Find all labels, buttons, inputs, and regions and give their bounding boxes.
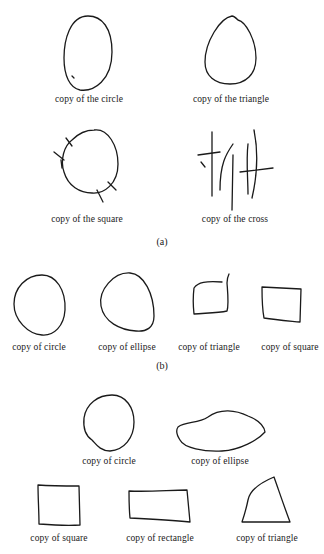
caption-a-cross: copy of the cross (202, 214, 268, 224)
panel-label-a: (a) (156, 236, 167, 247)
caption-b-circle: copy of circle (12, 342, 66, 352)
drawing-b-circle-copy (14, 275, 65, 335)
drawing-b-square-copy (262, 287, 301, 322)
caption-b-square: copy of square (261, 342, 318, 352)
caption-c-circle: copy of circle (82, 456, 136, 466)
drawing-c-rectangle-copy (129, 490, 190, 522)
drawing-a-cross-stroke (198, 152, 220, 155)
drawing-c-triangle-copy (242, 477, 290, 522)
caption-c-triangle: copy of triangle (236, 533, 298, 543)
caption-a-triangle: copy of the triangle (193, 94, 269, 104)
drawing-b-ellipse-copy (101, 273, 154, 331)
drawing-a-cross-stroke (252, 130, 257, 198)
drawing-c-square-copy (38, 485, 80, 525)
drawing-c-ellipse-copy (177, 411, 265, 451)
drawing-a-circle-copy (64, 16, 112, 90)
drawing-a-cross-stroke (201, 162, 205, 167)
caption-c-ellipse: copy of ellipse (191, 456, 248, 466)
drawing-b-triangle-copy (193, 274, 229, 314)
caption-c-square: copy of square (30, 533, 87, 543)
hand-drawn-shapes (0, 0, 324, 554)
panel-label-b: (b) (156, 360, 168, 371)
drawing-c-circle-copy (84, 395, 134, 451)
caption-b-triangle: copy of triangle (178, 342, 240, 352)
drawing-a-cross-stroke (232, 155, 233, 210)
drawing-a-cross-stroke (220, 144, 233, 190)
caption-c-rectangle: copy of rectangle (126, 533, 194, 543)
caption-a-circle: copy of the circle (55, 94, 123, 104)
drawing-a-triangle-copy (205, 16, 256, 84)
caption-b-ellipse: copy of ellipse (98, 342, 155, 352)
drawing-a-cross-stroke (247, 144, 248, 194)
caption-a-square: copy of the square (51, 214, 123, 224)
